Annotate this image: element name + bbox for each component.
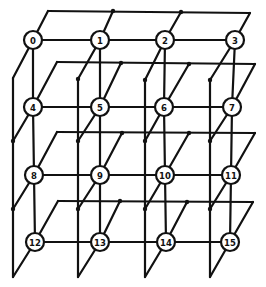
processor-node-3: 3 [226,31,244,49]
plane-top-edge [58,201,253,202]
processor-node-6: 6 [155,98,173,116]
junction-dot [185,200,189,204]
node-label: 8 [31,171,37,181]
junction-dot [119,61,123,65]
processor-node-2: 2 [156,31,174,49]
node-label: 15 [224,238,236,248]
plane-top-edge [57,132,255,133]
processor-node-15: 15 [221,233,239,251]
processor-node-11: 11 [222,166,240,184]
mesh-diagram-svg: 0123456789101112131415 [0,0,266,287]
junction-dot [143,207,147,211]
processor-node-1: 1 [91,31,109,49]
processor-node-5: 5 [91,98,109,116]
processor-node-0: 0 [24,31,42,49]
node-label: 12 [29,238,41,248]
processor-node-14: 14 [157,233,175,251]
column-link [231,107,232,175]
junction-dot [76,77,80,81]
node-label: 2 [162,36,168,46]
junction-dot [208,139,212,143]
column-link [164,107,165,175]
node-label: 5 [97,103,103,113]
processor-node-8: 8 [25,166,43,184]
junction-dot [111,9,115,13]
node-label: 13 [94,238,106,248]
junction-dot [76,139,80,143]
junction-dot [11,207,15,211]
node-label: 11 [225,171,237,181]
junction-dot [118,199,122,203]
node-label: 10 [159,171,171,181]
junction-dot [76,207,80,211]
processor-node-12: 12 [26,233,44,251]
node-label: 1 [97,36,103,46]
node-label: 3 [232,36,238,46]
node-label: 4 [30,103,36,113]
junction-dot [120,131,124,135]
junction-dot [208,207,212,211]
junction-dot [11,139,15,143]
interconnect-edges [13,11,255,277]
processor-node-7: 7 [223,98,241,116]
column-link [33,107,34,175]
junction-dot [208,78,212,82]
processor-node-9: 9 [91,166,109,184]
mesh-diagram: 0123456789101112131415 [0,0,266,287]
plane-top-edge [48,11,250,13]
node-label: 7 [229,103,235,113]
junction-dot [179,10,183,14]
node-label: 14 [160,238,172,248]
node-label: 6 [161,103,167,113]
junction-dot [187,62,191,66]
node-label: 9 [97,171,103,181]
junction-dot [187,131,191,135]
junction-dot [143,78,147,82]
processor-node-4: 4 [24,98,42,116]
node-label: 0 [30,36,36,46]
processor-node-13: 13 [91,233,109,251]
junction-dot [143,139,147,143]
processor-node-10: 10 [156,166,174,184]
